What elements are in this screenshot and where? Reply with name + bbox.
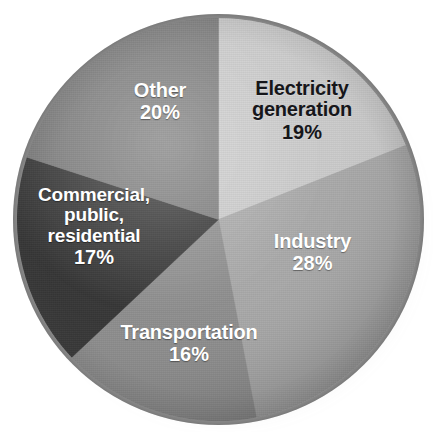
pie-chart-page: Electricity generation 19% Industry 28% … xyxy=(0,0,433,432)
pie-sheen-overlay xyxy=(17,18,420,421)
cut-off-title-remnant xyxy=(0,0,433,10)
pie-slices-svg xyxy=(17,18,420,421)
pie-chart xyxy=(17,18,420,421)
